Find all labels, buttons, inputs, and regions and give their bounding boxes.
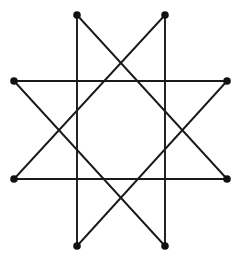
star-vertex-dot <box>10 175 18 183</box>
star-vertex-dot <box>73 11 81 19</box>
star-vertex-dot <box>161 242 169 250</box>
figure-canvas <box>0 0 243 265</box>
star-polygon-svg <box>0 0 243 265</box>
star-vertex-dot <box>10 77 18 85</box>
star-vertex-dot <box>161 11 169 19</box>
star-vertex-dot <box>223 175 231 183</box>
figure-background <box>0 0 243 265</box>
star-vertex-dot <box>73 242 81 250</box>
star-vertex-dot <box>223 77 231 85</box>
